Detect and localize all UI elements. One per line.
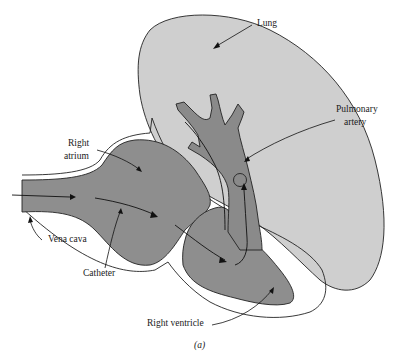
label-right-atrium-line2: atrium bbox=[64, 151, 89, 162]
label-lung: Lung bbox=[257, 18, 277, 29]
label-right-atrium-line1: Right bbox=[68, 138, 89, 149]
label-catheter: Catheter bbox=[83, 268, 115, 279]
label-pulmonary-artery-line2: artery bbox=[344, 117, 366, 128]
figure-caption: (a) bbox=[194, 340, 205, 351]
label-right-ventricle: Right ventricle bbox=[147, 318, 204, 329]
label-vena-cava: Vena cava bbox=[48, 234, 87, 245]
label-pulmonary-artery-line1: Pulmonary bbox=[336, 104, 378, 115]
diagram-canvas bbox=[0, 0, 393, 363]
